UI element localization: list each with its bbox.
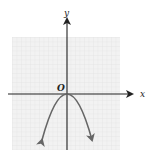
y-axis-label: y xyxy=(63,8,70,18)
parabola-figure: y x O xyxy=(0,0,151,150)
x-axis-label: x xyxy=(140,89,145,99)
origin-label: O xyxy=(57,83,65,93)
graph-svg: y x O xyxy=(0,0,151,150)
